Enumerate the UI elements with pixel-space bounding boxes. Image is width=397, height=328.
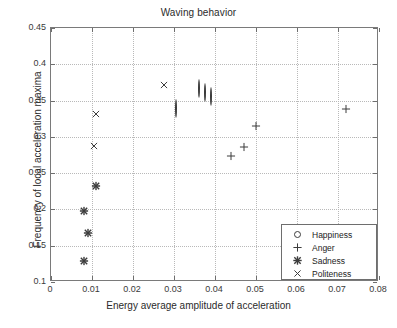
x-tick-label: 0.03 (164, 284, 182, 294)
y-axis-title: Frequency of local acceleration maxima (32, 35, 43, 285)
marker-plus-icon (239, 143, 248, 152)
data-point-happiness (204, 84, 206, 102)
tick-mark-y (373, 137, 377, 138)
gridline-vertical (215, 28, 216, 280)
gridline-horizontal (51, 137, 377, 138)
tick-mark-y (373, 101, 377, 102)
x-tick-label: 0.08 (369, 284, 387, 294)
legend-item-anger: Anger (282, 241, 376, 254)
data-point-happiness (198, 80, 200, 98)
marker-star-icon (92, 182, 101, 191)
tick-mark-x (133, 28, 134, 32)
tick-mark-y (373, 173, 377, 174)
marker-circle-icon (294, 231, 301, 238)
legend-item-politeness: Politeness (282, 267, 376, 280)
marker-star-icon (79, 206, 88, 215)
tick-mark-x (92, 276, 93, 280)
marker-star-icon (83, 228, 92, 237)
tick-mark-x (174, 276, 175, 280)
legend-label: Politeness (312, 269, 376, 279)
gridline-vertical (92, 28, 93, 280)
marker-plus-icon (342, 105, 351, 114)
data-point-sadness (79, 256, 88, 265)
tick-mark-y (51, 282, 55, 283)
tick-mark-y (373, 282, 377, 283)
gridline-vertical (256, 28, 257, 280)
legend-symbol (282, 231, 312, 238)
marker-x-icon (293, 269, 302, 278)
tick-mark-y (373, 209, 377, 210)
data-point-sadness (79, 206, 88, 215)
legend-item-happiness: Happiness (282, 228, 376, 241)
data-point-anger (252, 121, 261, 130)
tick-mark-y (51, 28, 55, 29)
tick-mark-x (338, 28, 339, 32)
tick-mark-x (256, 28, 257, 32)
marker-plus-icon (252, 121, 261, 130)
legend-label: Happiness (312, 230, 376, 240)
marker-x-icon (90, 141, 99, 150)
x-tick-label: 0.06 (287, 284, 305, 294)
x-tick-label: 0.07 (328, 284, 346, 294)
data-point-politeness (159, 80, 168, 89)
gridline-vertical (133, 28, 134, 280)
x-tick-label: 0.04 (205, 284, 223, 294)
legend-label: Anger (312, 243, 376, 253)
legend-symbol (282, 269, 312, 278)
tick-mark-y (373, 64, 377, 65)
marker-plus-icon (227, 151, 236, 160)
tick-mark-y (51, 246, 55, 247)
tick-mark-y (51, 209, 55, 210)
data-point-politeness (90, 141, 99, 150)
chart-legend: HappinessAngerSadnessPoliteness (281, 224, 377, 280)
legend-symbol (282, 243, 312, 252)
marker-star-icon (293, 256, 302, 265)
data-point-anger (239, 143, 248, 152)
tick-mark-y (51, 173, 55, 174)
tick-mark-x (92, 28, 93, 32)
marker-circle-icon (204, 83, 206, 102)
tick-mark-x (215, 28, 216, 32)
tick-mark-y (51, 101, 55, 102)
data-point-anger (227, 151, 236, 160)
x-axis-title: Energy average amplitude of acceleration (0, 300, 397, 311)
gridline-horizontal (51, 209, 377, 210)
gridline-vertical (174, 28, 175, 280)
gridline-horizontal (51, 173, 377, 174)
marker-circle-icon (198, 79, 200, 98)
marker-plus-icon (293, 243, 302, 252)
data-point-sadness (92, 182, 101, 191)
marker-circle-icon (210, 87, 212, 106)
data-point-politeness (92, 110, 101, 119)
marker-x-icon (159, 80, 168, 89)
data-point-happiness (210, 88, 212, 106)
scatter-chart-figure: Waving behavior 00.010.020.030.040.050.0… (0, 0, 397, 328)
tick-mark-x (51, 276, 52, 280)
marker-x-icon (92, 110, 101, 119)
tick-mark-x (215, 276, 216, 280)
tick-mark-x (379, 276, 380, 280)
marker-star-icon (79, 256, 88, 265)
gridline-horizontal (51, 101, 377, 102)
gridline-horizontal (51, 64, 377, 65)
tick-mark-y (51, 64, 55, 65)
chart-title: Waving behavior (0, 7, 397, 18)
x-tick-label: 0 (47, 284, 52, 294)
tick-mark-x (133, 276, 134, 280)
data-point-sadness (83, 228, 92, 237)
x-tick-label: 0.05 (246, 284, 264, 294)
tick-mark-x (297, 28, 298, 32)
legend-label: Sadness (312, 256, 376, 266)
tick-mark-x (174, 28, 175, 32)
tick-mark-y (373, 28, 377, 29)
tick-mark-x (256, 276, 257, 280)
marker-circle-icon (175, 99, 177, 118)
data-point-happiness (175, 100, 177, 118)
x-tick-label: 0.01 (82, 284, 100, 294)
tick-mark-x (379, 28, 380, 32)
legend-symbol (282, 256, 312, 265)
legend-item-sadness: Sadness (282, 254, 376, 267)
tick-mark-y (51, 137, 55, 138)
data-point-anger (342, 105, 351, 114)
x-tick-label: 0.02 (123, 284, 141, 294)
